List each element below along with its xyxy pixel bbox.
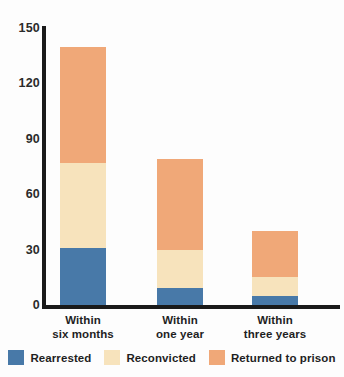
bar-segment-reconvicted[interactable] xyxy=(157,250,203,289)
category-line-2: three years xyxy=(220,327,330,341)
bar-stack xyxy=(157,159,203,305)
stacked-bar-chart: 150 120 90 60 30 0 xyxy=(0,0,344,377)
y-tick-label-60: 60 xyxy=(4,188,40,201)
bar-segment-returned-to-prison[interactable] xyxy=(60,47,106,163)
y-tick-label-0: 0 xyxy=(4,299,40,312)
x-category-label-within-three-years: Within three years xyxy=(220,313,330,341)
category-line-2: one year xyxy=(125,327,235,341)
legend-swatch-icon xyxy=(104,350,120,365)
category-line-2: six months xyxy=(28,327,138,341)
legend-label: Returned to prison xyxy=(231,352,336,364)
plot-area xyxy=(46,28,340,305)
bar-segment-reconvicted[interactable] xyxy=(60,163,106,248)
x-axis-line xyxy=(42,305,340,309)
category-line-1: Within xyxy=(220,313,330,327)
y-tick-label-150: 150 xyxy=(4,22,40,35)
y-tick-label-30: 30 xyxy=(4,244,40,257)
legend-label: Rearrested xyxy=(30,352,91,364)
y-tick-label-120: 120 xyxy=(4,77,40,90)
category-line-1: Within xyxy=(125,313,235,327)
legend-label: Reconvicted xyxy=(126,352,195,364)
legend-item-returned-to-prison[interactable]: Returned to prison xyxy=(209,350,336,365)
bar-stack xyxy=(252,231,298,305)
legend-item-rearrested[interactable]: Rearrested xyxy=(8,350,91,365)
bar-segment-rearrested[interactable] xyxy=(60,248,106,305)
legend-swatch-icon xyxy=(8,350,24,365)
y-tick-label-90: 90 xyxy=(4,133,40,146)
bar-segment-rearrested[interactable] xyxy=(252,296,298,305)
category-line-1: Within xyxy=(28,313,138,327)
bar-segment-returned-to-prison[interactable] xyxy=(252,231,298,277)
chart-legend: Rearrested Reconvicted Returned to priso… xyxy=(0,350,344,365)
legend-item-reconvicted[interactable]: Reconvicted xyxy=(104,350,195,365)
x-category-label-within-one-year: Within one year xyxy=(125,313,235,341)
bar-stack xyxy=(60,47,106,306)
bar-segment-rearrested[interactable] xyxy=(157,288,203,305)
bar-segment-reconvicted[interactable] xyxy=(252,277,298,295)
bar-segment-returned-to-prison[interactable] xyxy=(157,159,203,249)
legend-swatch-icon xyxy=(209,350,225,365)
x-category-label-within-six-months: Within six months xyxy=(28,313,138,341)
